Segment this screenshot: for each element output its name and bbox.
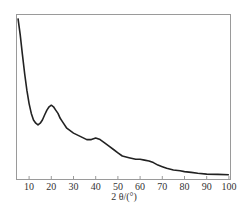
- x-tick-label: 10: [24, 181, 34, 192]
- x-tick-label: 90: [202, 181, 212, 192]
- x-axis-ticks: [29, 176, 229, 179]
- xrd-chart: 102030405060708090100 2 θ/(°): [0, 0, 248, 218]
- x-tick-label: 20: [46, 181, 56, 192]
- x-tick-label: 70: [157, 181, 167, 192]
- x-tick-label: 100: [221, 181, 236, 192]
- data-series-line: [18, 18, 229, 174]
- plot-frame: [17, 15, 231, 180]
- x-tick-label: 80: [180, 181, 190, 192]
- x-axis-title: 2 θ/(°): [111, 191, 137, 203]
- x-tick-label: 40: [91, 181, 101, 192]
- x-tick-label: 30: [69, 181, 79, 192]
